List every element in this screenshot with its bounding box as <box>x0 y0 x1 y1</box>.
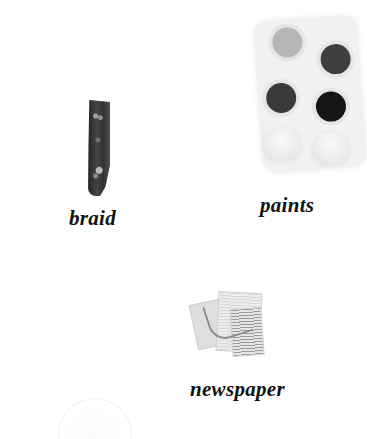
paint-palette-image <box>253 15 367 174</box>
braid-image <box>88 100 110 196</box>
paint-well-black <box>315 91 347 123</box>
paints-label: paints <box>260 193 314 218</box>
paint-well-light <box>271 26 303 58</box>
paint-well-dark <box>320 43 352 75</box>
faint-object-image <box>58 398 132 439</box>
crumpled-newspaper-image <box>193 290 267 356</box>
newspaper-label: newspaper <box>190 377 285 402</box>
paint-well-dark <box>265 82 297 114</box>
empty-cup <box>262 127 302 164</box>
empty-cup <box>311 130 351 167</box>
braid-label: braid <box>69 206 116 231</box>
